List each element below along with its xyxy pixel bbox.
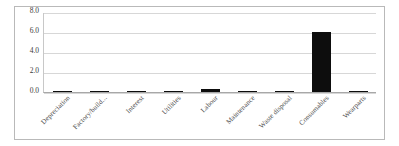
bar [164,91,183,92]
y-axis-tick-label: 2.0 [13,67,39,75]
bar [275,91,294,92]
bar [127,91,146,92]
bar [349,91,368,92]
x-axis-tick-label: Wearparts [341,94,367,120]
y-axis-tick-label: 0.0 [13,87,39,95]
y-axis-tick-label: 6.0 [13,27,39,35]
x-axis-tick-label: Labour [199,94,219,114]
x-axis-tick-label: Factory/build... [71,94,108,131]
bar-series [44,13,376,92]
y-axis-tick-label: 4.0 [13,47,39,55]
x-axis-tick-label: Utilities [160,94,182,116]
bar [53,91,72,92]
x-axis-tick-label: Waste disposal [257,94,293,130]
y-axis: 0.02.04.06.08.0 [14,6,43,106]
bar [90,91,109,92]
x-axis-category-labels: DepreciationFactory/build...InterestUtil… [43,94,376,140]
x-axis-tick-label: Interest [124,94,145,115]
x-axis-tick-label: Depreciation [39,94,71,126]
bar [312,32,331,92]
x-axis-tick-label: Consumables [297,94,330,127]
bar [201,89,220,93]
bar [238,91,257,92]
x-axis-tick-label: Maintenance [224,94,256,126]
plot-area [43,13,376,93]
chart-figure: 0.02.04.06.08.0 DepreciationFactory/buil… [0,0,399,146]
y-axis-tick-label: 8.0 [13,7,39,15]
